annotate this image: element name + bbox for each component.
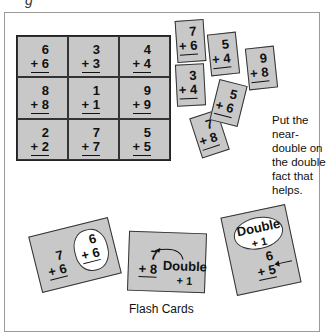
grid-cell: 3+ 3	[68, 36, 119, 77]
grid-cell: 2+ 2	[17, 119, 68, 160]
flash-card-arrow: 7+ 8 Double+ 1	[127, 231, 207, 294]
grid-cell: 7+ 7	[68, 119, 119, 160]
grid-cell: 5+ 5	[119, 119, 170, 160]
grid-cell: 8+ 8	[17, 77, 68, 118]
doubles-grid: 6+ 6 3+ 3 4+ 4 8+ 8 1+ 1 9+ 9 2+ 2 7+ 7 …	[16, 35, 171, 161]
figure-label: g	[25, 0, 33, 8]
grid-cell: 9+ 9	[119, 77, 170, 118]
grid-cell: 4+ 4	[119, 36, 170, 77]
near-double-card[interactable]: 7+ 6	[175, 19, 207, 63]
grid-cell: 6+ 6	[17, 36, 68, 77]
curved-arrow-icon	[149, 240, 190, 261]
near-double-card[interactable]: 3+ 4	[175, 63, 206, 106]
grid-cell: 1+ 1	[68, 77, 119, 118]
arrow-left-icon	[272, 256, 295, 268]
instruction-text: Put the near-double on the double fact t…	[272, 113, 332, 197]
near-double-card[interactable]: 5+ 4	[207, 32, 240, 77]
figure-caption: Flash Cards	[129, 302, 194, 316]
near-double-card[interactable]: 9+ 8	[245, 46, 278, 91]
